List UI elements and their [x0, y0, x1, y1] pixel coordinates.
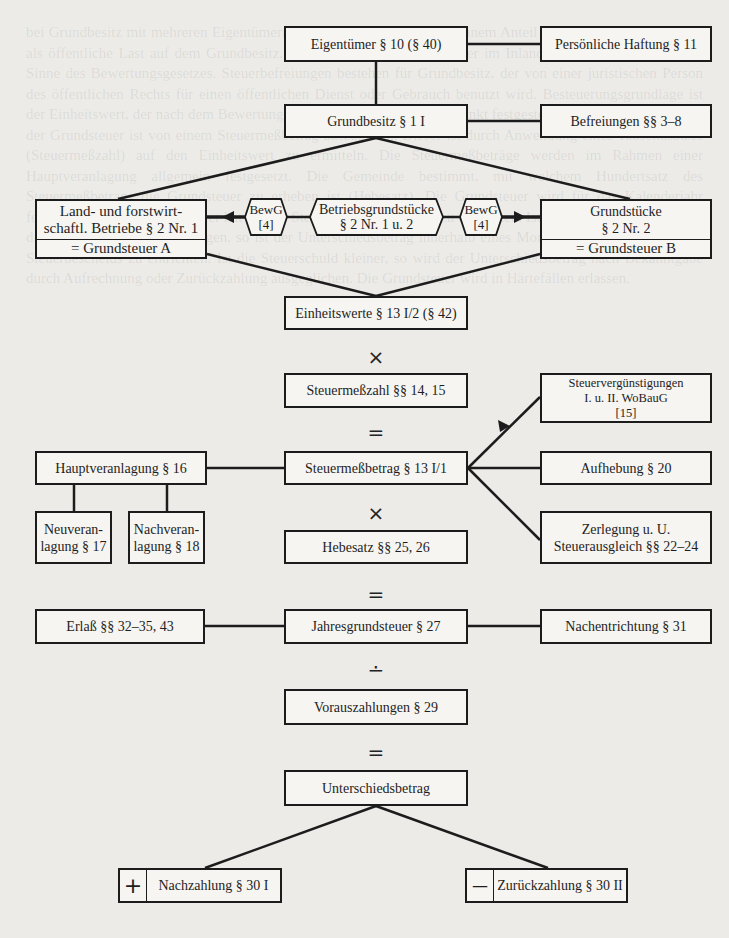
steuermessbetrag-box: Steuermeßbetrag § 13 I/1 [284, 451, 468, 485]
vorauszahlungen-label: Vorauszahlungen § 29 [314, 699, 438, 716]
nachveranlagung-line2: lagung § 18 [133, 538, 199, 555]
steuerverguenstigungen-box: Steuervergünstigungen I. u. II. WoBauG [… [540, 373, 712, 423]
unterschiedsbetrag-label: Unterschiedsbetrag [322, 780, 430, 797]
equals-operator: = [356, 422, 396, 442]
hebesatz-label: Hebesatz §§ 25, 26 [322, 539, 429, 556]
betriebsgrund-line2: § 2 Nr. 1 u. 2 [340, 217, 414, 232]
neuveranlagung-box: Neuveran- lagung § 17 [35, 511, 112, 564]
grundstuecke-line1: Grundstücke [590, 203, 662, 220]
nachentrichtung-box: Nachentrichtung § 31 [540, 609, 712, 644]
einheitswerte-label: Einheitswerte § 13 I/2 (§ 42) [295, 305, 456, 322]
jahresgrundsteuer-box: Jahresgrundsteuer § 27 [284, 609, 468, 644]
minus-icon: — [467, 870, 494, 901]
eigentuemer-box: Eigentümer § 10 (§ 40) [284, 26, 468, 62]
befreiungen-box: Befreiungen §§ 3–8 [540, 104, 712, 138]
haftung-box: Persönliche Haftung § 11 [540, 26, 712, 62]
nachveranlagung-box: Nachveran- lagung § 18 [128, 511, 205, 564]
neuveranlagung-line1: Neuveran- [44, 521, 103, 538]
befreiungen-label: Befreiungen §§ 3–8 [570, 113, 681, 130]
steuerverg-line1: Steuervergünstigungen [568, 376, 683, 391]
bewg-right-label: BewG [4] [460, 199, 502, 235]
hauptveranlagung-box: Hauptveranlagung § 16 [35, 451, 207, 485]
steuermesszahl-box: Steuermeßzahl §§ 14, 15 [284, 373, 468, 408]
betriebsgrund-line1: Betriebsgrundstücke [319, 202, 434, 217]
grundbesitz-label: Grundbesitz § 1 I [327, 113, 425, 130]
jahresgrundsteuer-label: Jahresgrundsteuer § 27 [311, 618, 440, 635]
neuveranlagung-line2: lagung § 17 [40, 538, 106, 555]
landforst-top: Land- und forstwirt- schaftl. Betriebe §… [37, 201, 205, 240]
erlass-label: Erlaß §§ 32–35, 43 [66, 618, 173, 635]
bewg-left-line2: [4] [258, 217, 273, 232]
grundsteuer-b: = Grundsteuer B [542, 240, 710, 257]
zurueckzahlung-label: Zurückzahlung § 30 II [494, 877, 626, 894]
betriebsgrund-label: Betriebsgrundstücke § 2 Nr. 1 u. 2 [310, 199, 443, 235]
nachzahlung-label: Nachzahlung § 30 I [147, 877, 280, 894]
zurueckzahlung-box: — Zurückzahlung § 30 II [465, 868, 628, 903]
zerlegung-line2: Steuerausgleich §§ 22–24 [554, 538, 699, 555]
grundstuecke-line2: § 2 Nr. 2 [602, 220, 651, 237]
plus-icon: + [120, 870, 147, 901]
einheitswerte-box: Einheitswerte § 13 I/2 (§ 42) [284, 296, 468, 330]
vorauszahlungen-box: Vorauszahlungen § 29 [284, 689, 468, 725]
eigentuemer-label: Eigentümer § 10 (§ 40) [311, 36, 442, 53]
aufhebung-box: Aufhebung § 20 [540, 451, 712, 485]
steuerverg-line3: [15] [616, 406, 637, 421]
grundsteuer-a: = Grundsteuer A [37, 240, 205, 257]
erlass-box: Erlaß §§ 32–35, 43 [35, 609, 205, 644]
steuermesszahl-label: Steuermeßzahl §§ 14, 15 [306, 382, 445, 399]
bewg-left-label: BewG [4] [245, 199, 287, 235]
multiply-operator: × [356, 347, 396, 367]
zerlegung-box: Zerlegung u. U. Steuerausgleich §§ 22–24 [540, 511, 712, 564]
steuerverg-line2: I. u. II. WoBauG [584, 391, 667, 406]
multiply-operator-2: × [356, 503, 396, 523]
minus-operator: ∸ [356, 660, 396, 680]
grundstuecke-box: Grundstücke § 2 Nr. 2 = Grundsteuer B [540, 199, 712, 259]
nachveranlagung-line1: Nachveran- [134, 521, 199, 538]
bewg-left-line1: BewG [249, 202, 282, 217]
nachentrichtung-label: Nachentrichtung § 31 [565, 618, 686, 635]
grundbesitz-box: Grundbesitz § 1 I [284, 104, 468, 138]
nachzahlung-box: + Nachzahlung § 30 I [118, 868, 282, 903]
hauptveranlagung-label: Hauptveranlagung § 16 [55, 460, 186, 477]
grundstuecke-top: Grundstücke § 2 Nr. 2 [542, 201, 710, 240]
equals-operator-3: = [356, 742, 396, 762]
unterschiedsbetrag-box: Unterschiedsbetrag [284, 770, 468, 806]
zerlegung-line1: Zerlegung u. U. [582, 521, 671, 538]
landforst-box: Land- und forstwirt- schaftl. Betriebe §… [35, 199, 207, 259]
landforst-line2: schaftl. Betriebe § 2 Nr. 1 [44, 220, 199, 237]
bewg-right-line2: [4] [473, 217, 488, 232]
landforst-line1: Land- und forstwirt- [60, 203, 182, 220]
equals-operator-2: = [356, 584, 396, 604]
hebesatz-box: Hebesatz §§ 25, 26 [284, 530, 468, 564]
haftung-label: Persönliche Haftung § 11 [555, 36, 697, 53]
aufhebung-label: Aufhebung § 20 [581, 460, 672, 477]
bewg-right-line1: BewG [464, 202, 497, 217]
steuermessbetrag-label: Steuermeßbetrag § 13 I/1 [305, 460, 447, 477]
